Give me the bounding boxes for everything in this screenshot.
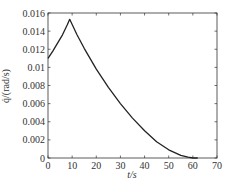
x-tick-label: 0 [46,160,51,171]
data-series [48,19,198,158]
x-axis-label: t/s [127,169,137,180]
plot-border [48,13,217,158]
y-tick-label: 0.006 [23,98,46,109]
y-axis-label: q̇/(rad/s) [0,69,12,103]
x-tick-label: 60 [188,160,198,171]
y-tick-label: 0.002 [23,134,46,145]
y-axis-ticks: 00.0020.0040.0060.0080.010.0120.0140.016 [23,8,218,164]
y-tick-label: 0.008 [23,80,46,91]
y-tick-label: 0.014 [23,26,46,37]
x-tick-label: 20 [91,160,101,171]
x-axis-ticks: 010203040506070 [46,13,223,171]
series-line [48,19,198,158]
y-tick-label: 0.012 [23,44,46,55]
y-tick-label: 0.01 [28,62,46,73]
plot-frame [48,13,217,158]
x-tick-label: 10 [67,160,77,171]
line-chart: 010203040506070 00.0020.0040.0060.0080.0… [0,0,228,183]
y-tick-label: 0.016 [23,8,46,19]
x-tick-label: 70 [212,160,222,171]
y-tick-label: 0.004 [23,116,46,127]
y-tick-label: 0 [40,153,45,164]
x-tick-label: 40 [140,160,150,171]
x-tick-label: 30 [115,160,125,171]
x-tick-label: 50 [164,160,174,171]
